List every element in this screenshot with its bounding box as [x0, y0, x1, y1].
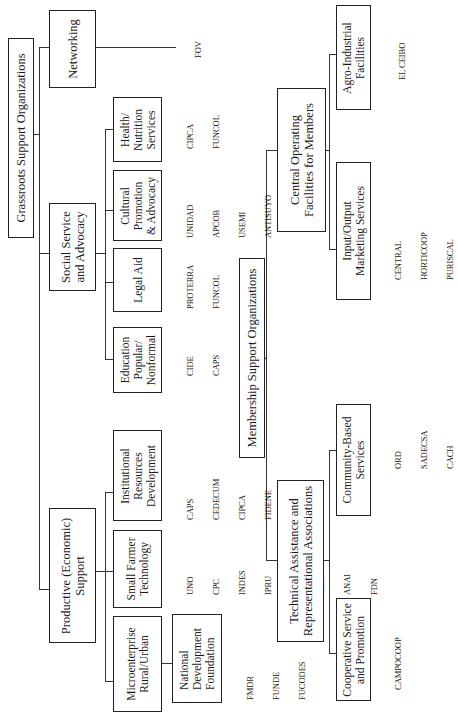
connector — [105, 282, 113, 283]
node-label: Microenterprise Rural/Urban — [125, 627, 151, 700]
node-label: Input/Output Marketing Services — [341, 186, 367, 276]
connector — [105, 210, 113, 211]
connector — [96, 47, 176, 48]
node-label: Education Popular/ Nonformal — [118, 335, 157, 385]
connector — [39, 589, 49, 590]
org-list-cultural: UNIDAD APCOB USEMI ANTISUYO — [168, 195, 282, 238]
org-list-cooperative: CAMPOCOOP — [376, 637, 411, 690]
node-label: Legal Aid — [131, 257, 144, 303]
node-cooperative-service: Cooperative Service and Promotion — [336, 598, 371, 701]
connector — [105, 571, 113, 572]
org-list-networking: FOV — [176, 41, 211, 58]
node-label: Grassroots Support Organizations — [14, 53, 28, 222]
node-membership-support-organizations: Membership Support Organizations — [239, 258, 265, 458]
org-list-community-based: ORD SADECSA CACH — [376, 431, 458, 469]
org-list-national-development: FMDR FUNDE FUCODES — [228, 662, 316, 700]
connector — [39, 47, 40, 590]
node-national-development-foundation: National Development Foundation — [172, 614, 222, 703]
node-cultural-promotion: Cultural Promotion & Advocacy — [113, 170, 162, 241]
node-central-operating-facilities: Central Operating Facilities for Members — [277, 88, 326, 232]
node-label: Productive (Economic) Support — [59, 517, 87, 633]
node-microenterprise: Microenterprise Rural/Urban — [113, 616, 162, 712]
node-small-farmer-technology: Small Farmer Technology — [113, 530, 162, 608]
node-label: Agro-Industrial Facilities — [341, 22, 367, 94]
connector — [105, 681, 113, 682]
connector — [266, 150, 277, 151]
connector — [39, 47, 49, 48]
node-label: Community-Based Services — [341, 417, 367, 504]
node-grassroots-support-organizations: Grassroots Support Organizations — [8, 38, 34, 238]
node-institutional-resources: Institutional Resources Development — [113, 430, 162, 521]
connector — [162, 663, 172, 664]
connector — [105, 129, 113, 130]
org-list-health: CIPCA FUNCOL — [168, 115, 229, 149]
node-health-nutrition: Health/ Nutrition Services — [113, 97, 162, 162]
node-productive-economic-support: Productive (Economic) Support — [49, 508, 96, 643]
connector — [329, 54, 330, 250]
node-label: Health/ Nutrition Services — [118, 108, 157, 150]
org-list-institutional: CAPS CEDECUM CIPCA FIDENE — [168, 479, 282, 520]
node-label: Cultural Promotion & Advocacy — [118, 177, 157, 235]
node-community-based-services: Community-Based Services — [336, 404, 371, 516]
node-label: National Development Foundation — [178, 628, 217, 690]
node-label: Social Service and Advocacy — [59, 211, 87, 283]
node-agro-industrial: Agro-Industrial Facilities — [336, 5, 371, 110]
node-label: Central Operating Facilities for Members — [288, 103, 316, 217]
connector — [329, 653, 336, 654]
node-label: Membership Support Organizations — [245, 269, 259, 448]
connector — [329, 450, 336, 451]
org-list-agro-industrial: EL CEIBO — [380, 43, 415, 80]
connector — [96, 253, 105, 254]
node-legal-aid: Legal Aid — [113, 248, 162, 312]
org-list-education: CIDE CAPS — [168, 355, 229, 376]
org-list-input-output: CENTRAL HORTICOOP PURISCAL — [376, 232, 458, 280]
connector — [39, 253, 49, 254]
connector — [329, 54, 336, 55]
node-label: Networking — [66, 19, 80, 79]
node-label: Cooperative Service and Promotion — [341, 603, 367, 697]
connector — [105, 492, 106, 682]
connector — [105, 492, 113, 493]
node-education: Education Popular/ Nonformal — [113, 327, 162, 393]
node-technical-assistance: Technical Assistance and Representationa… — [277, 480, 324, 642]
node-social-service-advocacy: Social Service and Advocacy — [49, 203, 96, 291]
node-label: Small Farmer Technology — [125, 538, 151, 601]
node-label: Technical Assistance and Representationa… — [287, 486, 315, 636]
node-input-output-marketing: Input/Output Marketing Services — [336, 162, 371, 300]
node-networking: Networking — [49, 10, 96, 88]
connector — [105, 359, 113, 360]
connector — [329, 249, 336, 250]
connector — [96, 571, 105, 572]
node-label: Institutional Resources Development — [118, 445, 157, 507]
org-list-legal-aid: PROTERRA FUNCOL — [168, 265, 229, 309]
connector — [105, 129, 106, 360]
